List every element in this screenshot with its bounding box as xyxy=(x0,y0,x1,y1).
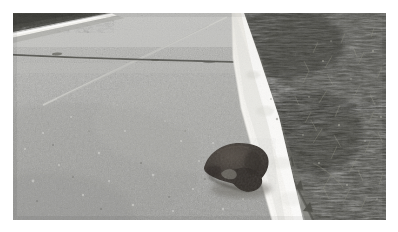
photograph xyxy=(13,13,386,220)
photo-grain xyxy=(13,13,386,220)
photo-canvas: Roadside photograph Black and white phot… xyxy=(0,0,398,232)
photograph-content xyxy=(13,13,386,220)
